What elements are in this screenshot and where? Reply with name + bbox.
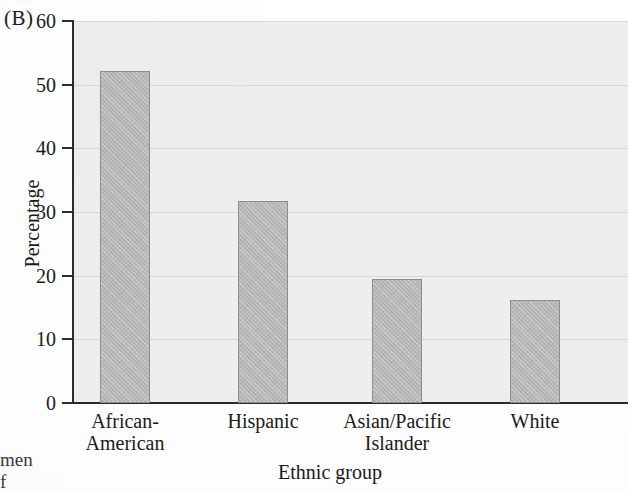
gridline-30 (72, 212, 628, 213)
y-tick-label-50: 50 (0, 75, 56, 95)
x-tick-label-hispanic: Hispanic (193, 410, 333, 432)
y-tick-mark-20 (62, 275, 73, 277)
x-axis-title: Ethnic group (230, 461, 430, 484)
bar-white (510, 300, 560, 403)
gridline-20 (72, 276, 628, 277)
bar-hispanic (238, 201, 288, 403)
y-tick-mark-10 (62, 338, 73, 340)
bar-african-american (100, 71, 150, 403)
y-tick-mark-40 (62, 147, 73, 149)
gridline-60 (72, 21, 628, 22)
caption-fragment: men f (0, 449, 33, 493)
y-tick-label-60: 60 (0, 11, 56, 31)
y-tick-mark-60 (62, 20, 73, 22)
gridline-50 (72, 85, 628, 86)
x-tick-label-african-american: African- American (55, 410, 195, 455)
y-tick-mark-50 (62, 84, 73, 86)
y-axis-title: Percentage (21, 114, 44, 334)
x-tick-label-white: White (465, 410, 605, 432)
x-tick-label-asian-pacific-islander: Asian/Pacific Islander (322, 410, 472, 455)
y-tick-mark-30 (62, 211, 73, 213)
gridline-40 (72, 148, 628, 149)
y-tick-label-0: 0 (0, 393, 56, 413)
bar-asian-pacific-islander (372, 279, 422, 403)
